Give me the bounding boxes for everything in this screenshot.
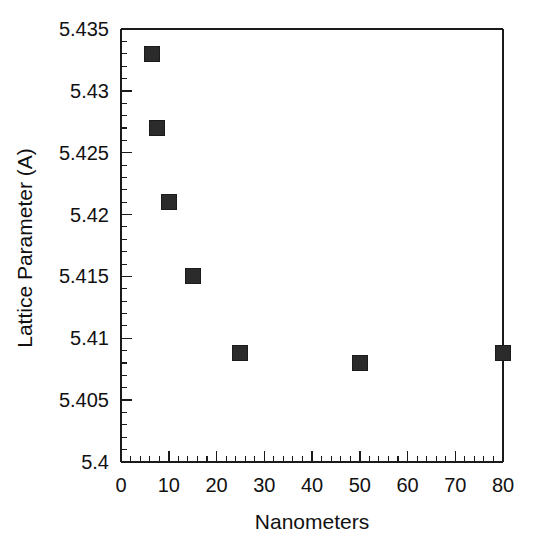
x-tick-label: 70: [444, 474, 466, 496]
x-tick-label: 80: [492, 474, 514, 496]
x-axis-title: Nanometers: [255, 510, 369, 533]
x-tick-label: 20: [205, 474, 227, 496]
scatter-plot: 5.45.4055.415.4155.425.4255.435.435 0102…: [0, 0, 538, 549]
data-point-marker: [352, 356, 367, 371]
y-tick-label: 5.435: [59, 18, 109, 40]
data-point-marker: [496, 346, 511, 361]
x-tick-label: 10: [158, 474, 180, 496]
data-point-marker: [145, 46, 160, 61]
x-tick-label: 40: [301, 474, 323, 496]
chart-figure: 5.45.4055.415.4155.425.4255.435.435 0102…: [0, 0, 538, 549]
y-tick-label: 5.415: [59, 265, 109, 287]
data-point-marker: [233, 346, 248, 361]
x-tick-label: 0: [115, 474, 126, 496]
y-tick-label: 5.42: [70, 204, 109, 226]
y-tick-label: 5.41: [70, 327, 109, 349]
data-point-series: [145, 46, 511, 370]
x-axis-tick-labels: 01020304050607080: [115, 474, 514, 496]
data-point-marker: [161, 195, 176, 210]
y-axis-ticks: [121, 29, 132, 462]
y-axis-tick-labels: 5.45.4055.415.4155.425.4255.435.435: [59, 18, 109, 473]
y-tick-label: 5.4: [81, 451, 109, 473]
data-point-marker: [185, 269, 200, 284]
y-axis-title: Lattice Parameter (A): [13, 148, 36, 348]
data-point-marker: [149, 120, 164, 135]
x-tick-label: 60: [396, 474, 418, 496]
y-tick-label: 5.405: [59, 389, 109, 411]
x-axis-ticks: [121, 451, 503, 462]
x-tick-label: 30: [253, 474, 275, 496]
y-tick-label: 5.425: [59, 142, 109, 164]
y-tick-label: 5.43: [70, 80, 109, 102]
axis-frame: [121, 29, 503, 462]
x-tick-label: 50: [349, 474, 371, 496]
